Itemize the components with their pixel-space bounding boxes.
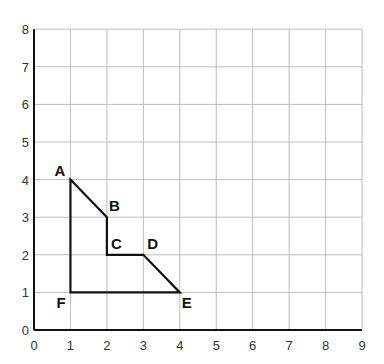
y-tick-label: 5 (22, 135, 29, 150)
y-tick-label: 8 (22, 22, 29, 37)
grid-lines (34, 29, 362, 330)
y-tick-label: 4 (22, 173, 29, 188)
y-tick-label: 6 (22, 97, 29, 112)
y-axis-ticks: 012345678 (22, 22, 29, 338)
x-tick-label: 6 (249, 338, 256, 353)
x-axis-ticks: 0123456789 (30, 338, 365, 353)
x-tick-label: 9 (358, 338, 365, 353)
x-tick-label: 2 (103, 338, 110, 353)
vertex-label-c: C (111, 235, 122, 252)
x-tick-label: 3 (140, 338, 147, 353)
x-tick-label: 5 (213, 338, 220, 353)
y-tick-label: 2 (22, 248, 29, 263)
polygon-abcdef (70, 180, 179, 293)
y-tick-label: 7 (22, 60, 29, 75)
x-tick-label: 7 (286, 338, 293, 353)
vertex-label-b: B (109, 197, 120, 214)
y-tick-label: 1 (22, 285, 29, 300)
vertex-label-f: F (56, 294, 65, 311)
vertex-label-a: A (54, 162, 65, 179)
y-tick-label: 3 (22, 210, 29, 225)
x-tick-label: 8 (322, 338, 329, 353)
y-tick-label: 0 (22, 323, 29, 338)
x-tick-label: 0 (30, 338, 37, 353)
x-tick-label: 1 (67, 338, 74, 353)
vertex-label-d: D (147, 235, 158, 252)
coordinate-grid-chart: 0123456789 012345678 ABCDEF (0, 0, 384, 364)
vertex-label-e: E (182, 294, 192, 311)
x-tick-label: 4 (176, 338, 183, 353)
